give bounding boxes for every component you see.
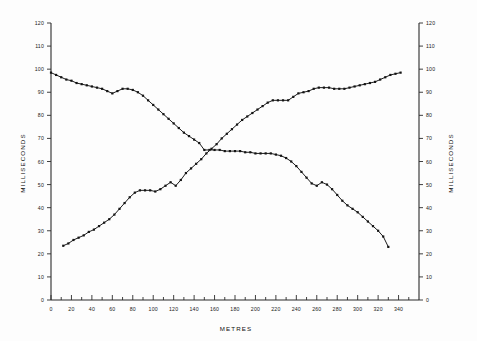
series-marker-ascending-curve xyxy=(354,85,356,87)
series-marker-ascending-curve xyxy=(272,99,274,101)
series-marker-ascending-curve xyxy=(144,189,146,191)
series-marker-ascending-curve xyxy=(384,76,386,78)
series-marker-descending-curve xyxy=(91,85,93,87)
series-group xyxy=(50,72,402,248)
series-marker-descending-curve xyxy=(137,91,139,93)
series-marker-descending-curve xyxy=(55,74,57,76)
series-marker-descending-curve xyxy=(203,149,205,151)
series-marker-ascending-curve xyxy=(389,74,391,76)
series-marker-descending-curve xyxy=(157,108,159,110)
series-marker-ascending-curve xyxy=(287,99,289,101)
series-marker-descending-curve xyxy=(341,200,343,202)
series-marker-descending-curve xyxy=(382,235,384,237)
series-marker-descending-curve xyxy=(285,157,287,159)
x-tick-label: 100 xyxy=(149,306,158,312)
x-tick-label: 60 xyxy=(109,306,115,312)
y-tick-label-left: 40 xyxy=(38,205,44,211)
series-marker-descending-curve xyxy=(357,211,359,213)
series-marker-descending-curve xyxy=(224,150,226,152)
series-marker-descending-curve xyxy=(167,118,169,120)
y-tick-label-right: 120 xyxy=(426,20,435,26)
x-tick-label: 120 xyxy=(169,306,178,312)
series-marker-descending-curve xyxy=(183,132,185,134)
series-marker-ascending-curve xyxy=(113,213,115,215)
series-marker-ascending-curve xyxy=(159,188,161,190)
series-marker-descending-curve xyxy=(275,153,277,155)
y-tick-label-right: 10 xyxy=(426,274,432,280)
series-marker-descending-curve xyxy=(305,177,307,179)
series-marker-ascending-curve xyxy=(103,222,105,224)
y-tick-label-left: 60 xyxy=(38,159,44,165)
x-axis-title: METRES xyxy=(220,325,252,332)
series-marker-ascending-curve xyxy=(323,87,325,89)
series-marker-ascending-curve xyxy=(78,237,80,239)
series-marker-descending-curve xyxy=(290,160,292,162)
series-marker-ascending-curve xyxy=(108,218,110,220)
ticks-group xyxy=(47,23,423,300)
series-marker-descending-curve xyxy=(326,183,328,185)
series-marker-ascending-curve xyxy=(195,163,197,165)
series-marker-descending-curve xyxy=(311,182,313,184)
y-tick-label-left: 70 xyxy=(38,135,44,141)
series-marker-ascending-curve xyxy=(333,88,335,90)
series-line-ascending-curve xyxy=(63,73,400,246)
series-marker-descending-curve xyxy=(265,152,267,154)
series-marker-descending-curve xyxy=(65,78,67,80)
series-marker-ascending-curve xyxy=(313,88,315,90)
series-marker-descending-curve xyxy=(116,90,118,92)
series-marker-descending-curve xyxy=(70,80,72,82)
series-marker-descending-curve xyxy=(351,208,353,210)
y-tick-label-left: 90 xyxy=(38,89,44,95)
y-tick-label-right: 70 xyxy=(426,135,432,141)
series-marker-ascending-curve xyxy=(170,181,172,183)
series-marker-ascending-curve xyxy=(180,179,182,181)
y-tick-label-left: 10 xyxy=(38,274,44,280)
series-marker-descending-curve xyxy=(132,89,134,91)
series-marker-ascending-curve xyxy=(231,128,233,130)
series-marker-ascending-curve xyxy=(88,231,90,233)
x-tick-label: 340 xyxy=(394,306,403,312)
series-marker-descending-curve xyxy=(178,127,180,129)
series-marker-descending-curve xyxy=(173,122,175,124)
x-tick-label: 40 xyxy=(89,306,95,312)
series-marker-ascending-curve xyxy=(67,242,69,244)
y-axis-title-left: MILLISECONDS xyxy=(19,133,26,192)
series-marker-descending-curve xyxy=(234,150,236,152)
series-marker-ascending-curve xyxy=(292,96,294,98)
x-tick-label: 200 xyxy=(251,306,260,312)
series-marker-ascending-curve xyxy=(98,225,100,227)
series-marker-descending-curve xyxy=(244,151,246,153)
series-marker-ascending-curve xyxy=(348,87,350,89)
x-tick-label: 320 xyxy=(373,306,382,312)
series-marker-ascending-curve xyxy=(343,88,345,90)
series-marker-descending-curve xyxy=(121,88,123,90)
series-marker-ascending-curve xyxy=(302,91,304,93)
series-marker-ascending-curve xyxy=(338,88,340,90)
series-marker-descending-curve xyxy=(259,152,261,154)
series-marker-descending-curve xyxy=(142,95,144,97)
y-tick-label-left: 80 xyxy=(38,112,44,118)
series-marker-descending-curve xyxy=(213,149,215,151)
x-tick-label: 140 xyxy=(189,306,198,312)
line-chart: 0010102020303040405050606070708080909010… xyxy=(0,0,477,341)
series-marker-descending-curve xyxy=(387,246,389,248)
series-marker-descending-curve xyxy=(321,181,323,183)
y-tick-label-left: 120 xyxy=(35,20,44,26)
series-marker-ascending-curve xyxy=(129,196,131,198)
y-axis-title-right: MILLISECONDS xyxy=(447,133,454,192)
series-marker-ascending-curve xyxy=(318,87,320,89)
series-marker-ascending-curve xyxy=(221,137,223,139)
series-marker-descending-curve xyxy=(111,92,113,94)
y-tick-label-left: 110 xyxy=(35,43,44,49)
x-tick-label: 280 xyxy=(333,306,342,312)
series-marker-descending-curve xyxy=(188,135,190,137)
series-marker-ascending-curve xyxy=(124,202,126,204)
series-marker-ascending-curve xyxy=(216,143,218,145)
series-marker-descending-curve xyxy=(60,76,62,78)
x-tick-label: 260 xyxy=(312,306,321,312)
series-marker-ascending-curve xyxy=(149,189,151,191)
series-marker-ascending-curve xyxy=(62,245,64,247)
series-marker-ascending-curve xyxy=(328,87,330,89)
series-marker-descending-curve xyxy=(239,150,241,152)
series-marker-ascending-curve xyxy=(200,158,202,160)
